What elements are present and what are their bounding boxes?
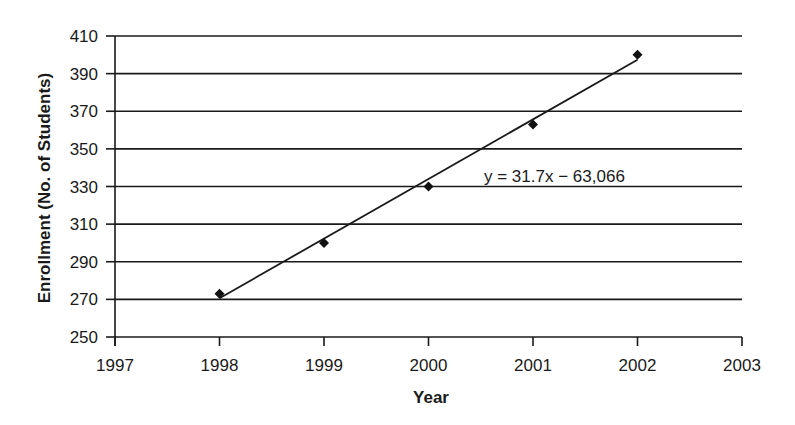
x-tick-label: 2001 [514,356,552,375]
y-tick-label: 330 [70,178,98,197]
x-tick-label: 2003 [723,356,761,375]
y-axis-title: Enrollment (No. of Students) [35,73,54,303]
x-tick-label: 2002 [619,356,657,375]
y-axis-tick-labels: 250270290310330350370390410 [70,27,98,347]
x-tick-label: 2000 [410,356,448,375]
y-tick-label: 350 [70,140,98,159]
x-tick-label: 1999 [305,356,343,375]
x-axis-tick-labels: 1997199819992000200120022003 [96,356,761,375]
x-tick-label: 1997 [96,356,134,375]
y-tick-label: 310 [70,215,98,234]
data-point-diamond-2002 [633,50,643,60]
x-tick-label: 1998 [201,356,239,375]
trendline-equation: y = 31.7x − 63,066 [484,167,625,186]
data-point-diamond-2000 [424,182,434,192]
y-tick-label: 270 [70,290,98,309]
y-tick-label: 290 [70,253,98,272]
y-tick-label: 390 [70,65,98,84]
chart-container: 250270290310330350370390410 199719981999… [0,0,795,425]
y-tick-label: 250 [70,328,98,347]
data-point-diamond-1999 [319,238,329,248]
y-tick-label: 370 [70,102,98,121]
x-axis-title: Year [413,388,449,407]
gridlines [115,36,742,299]
y-tick-label: 410 [70,27,98,46]
scatter-chart: 250270290310330350370390410 199719981999… [0,0,795,425]
